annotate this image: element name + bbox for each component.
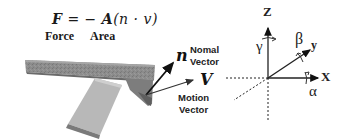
diagram-canvas: F = − A(n · v) Force Area n Nomal Vector…	[0, 0, 349, 139]
label-force: Force	[45, 29, 74, 44]
gamma-label: γ	[256, 38, 263, 55]
formula-labels: Force Area	[45, 29, 115, 44]
motion-caption-line1: Motion	[178, 92, 209, 104]
normal-caption-line2: Vector	[190, 56, 219, 68]
motion-vector-symbol: V	[200, 70, 212, 89]
z-axis-label: Z	[263, 4, 272, 20]
normal-vector-caption: Nomal Vector	[190, 44, 219, 68]
force-formula: F = − A(n · v)	[52, 11, 158, 27]
bar-shape	[25, 60, 155, 82]
formula-dot-product: (n · v)	[113, 11, 158, 27]
formula-area-symbol: A	[102, 11, 113, 27]
plate-shape	[66, 78, 122, 139]
label-area: Area	[90, 29, 115, 44]
y-axis-label: y	[311, 38, 317, 53]
motion-caption-line2: Vector	[178, 104, 209, 116]
beta-label: β	[295, 30, 303, 48]
formula-force-symbol: F	[52, 11, 62, 27]
coordinate-axes	[224, 28, 318, 120]
alpha-label: α	[309, 83, 317, 100]
x-axis-label: X	[321, 69, 330, 85]
normal-vector-symbol: n	[176, 46, 188, 65]
motion-vector-caption: Motion Vector	[178, 92, 209, 116]
normal-caption-line1: Nomal	[190, 44, 219, 56]
formula-equals: = −	[67, 11, 96, 27]
